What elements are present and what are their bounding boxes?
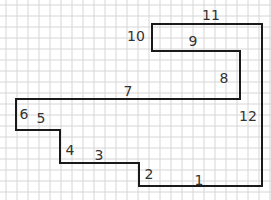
edge-label-5: 5 <box>37 110 46 126</box>
edge-label-12: 12 <box>239 108 257 124</box>
edge-label-11: 11 <box>202 7 220 23</box>
edge-label-4: 4 <box>66 142 75 158</box>
edge-label-2: 2 <box>145 166 154 182</box>
edge-label-3: 3 <box>95 147 104 163</box>
edge-label-10: 10 <box>127 28 145 44</box>
edge-label-6: 6 <box>20 106 29 122</box>
rectilinear-shape <box>16 24 262 186</box>
edge-label-1: 1 <box>195 172 204 188</box>
edge-label-7: 7 <box>124 83 133 99</box>
polygon-diagram: 1 2 3 4 5 6 7 8 9 10 11 12 <box>0 0 271 200</box>
edge-label-9: 9 <box>189 33 198 49</box>
edge-label-8: 8 <box>220 70 229 86</box>
